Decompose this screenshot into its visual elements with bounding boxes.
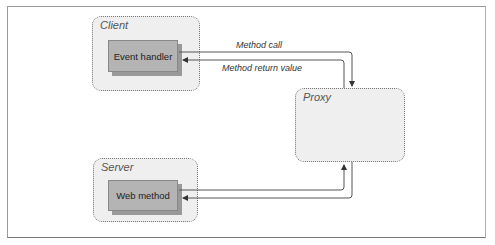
method-return-label: Method return value xyxy=(222,63,302,73)
connector-lines xyxy=(0,0,495,245)
server-to-proxy-arrow xyxy=(179,165,344,190)
proxy-to-server-arrow xyxy=(183,162,352,198)
method-call-label: Method call xyxy=(236,40,282,50)
